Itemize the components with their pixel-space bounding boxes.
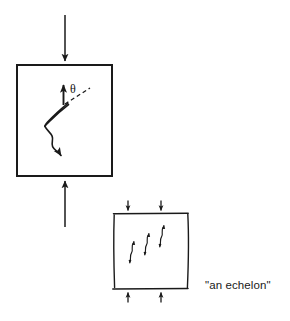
echelon-crack-1 [130,241,134,263]
figure-root: θ [0,0,290,321]
main-specimen-group: θ [17,15,112,227]
dashed-reference-line [65,88,90,104]
echelon-crack-2 [145,233,149,255]
echelon-crack-3 [160,225,164,247]
echelon-specimen-group [113,201,189,303]
echelon-caption: "an echelon" [205,279,271,291]
echelon-box-right-edge [187,214,188,288]
theta-angle-label: θ [70,82,76,96]
echelon-box-top-edge [114,213,189,214]
wing-crack-tail [45,126,61,155]
echelon-box-bottom-edge [113,288,188,289]
wing-crack-sliver [45,104,69,127]
echelon-box-left-edge [114,215,115,287]
main-specimen-box [17,65,112,176]
figure-canvas: θ [0,0,290,321]
